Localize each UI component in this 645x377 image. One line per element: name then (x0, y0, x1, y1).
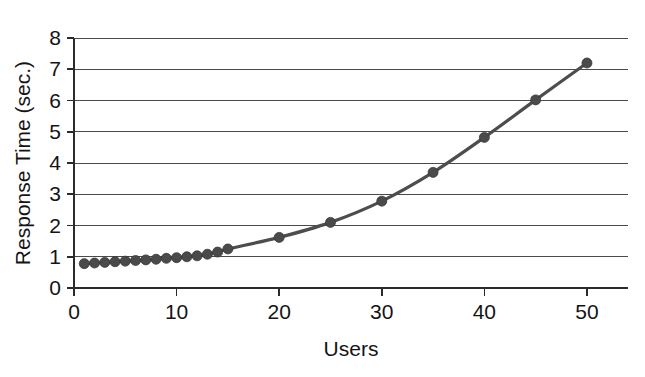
data-point-10 (172, 253, 182, 263)
data-point-11 (182, 252, 192, 262)
data-point-12 (192, 251, 202, 261)
data-point-4 (110, 257, 120, 267)
y-tick-label-6: 6 (49, 89, 61, 112)
y-tick-label-0: 0 (49, 276, 61, 299)
data-point-20 (274, 232, 284, 242)
x-tick-label-30: 30 (370, 300, 393, 323)
data-point-15 (223, 244, 233, 254)
data-point-6 (131, 256, 141, 266)
data-point-9 (161, 253, 171, 263)
x-tick-label-40: 40 (473, 300, 496, 323)
x-tick-label-10: 10 (165, 300, 188, 323)
data-point-3 (100, 257, 110, 267)
data-point-30 (377, 196, 387, 206)
gridlines-group (74, 38, 628, 257)
response-time-line-chart: 012345678 01020304050 Response Time (sec… (0, 0, 645, 377)
y-tick-label-1: 1 (49, 245, 61, 268)
chart-container: 012345678 01020304050 Response Time (sec… (0, 0, 645, 377)
x-tick-labels-group: 01020304050 (68, 300, 598, 323)
data-point-1 (79, 259, 89, 269)
data-point-13 (202, 249, 212, 259)
data-point-14 (213, 247, 223, 257)
x-tick-label-50: 50 (575, 300, 598, 323)
y-axis-title: Response Time (sec.) (11, 61, 34, 265)
y-tick-label-7: 7 (49, 57, 61, 80)
y-tick-label-4: 4 (49, 151, 61, 174)
y-tick-label-2: 2 (49, 214, 61, 237)
data-point-40 (479, 132, 489, 142)
y-tick-labels-group: 012345678 (49, 26, 61, 299)
data-point-7 (141, 255, 151, 265)
data-point-45 (531, 95, 541, 105)
x-tick-label-0: 0 (68, 300, 80, 323)
y-tick-label-8: 8 (49, 26, 61, 49)
data-point-50 (582, 58, 592, 68)
data-point-5 (120, 256, 130, 266)
data-point-25 (325, 217, 335, 227)
data-point-8 (151, 254, 161, 264)
data-point-35 (428, 167, 438, 177)
x-axis-title: Users (324, 337, 379, 360)
x-tick-label-20: 20 (268, 300, 291, 323)
y-tick-label-5: 5 (49, 120, 61, 143)
data-point-2 (90, 258, 100, 268)
y-tick-label-3: 3 (49, 182, 61, 205)
